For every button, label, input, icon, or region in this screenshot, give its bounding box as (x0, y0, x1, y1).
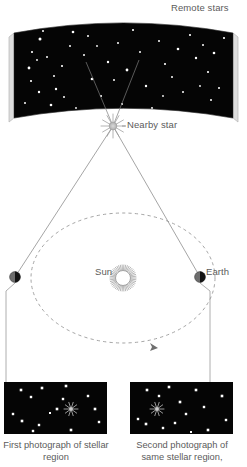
label-earth: Earth (206, 266, 229, 277)
stellar-parallax-diagram: Remote stars Nearby star Sun Earth First… (0, 0, 247, 467)
sight-line-left (15, 126, 113, 277)
label-sun: Sun (95, 266, 112, 277)
photo-frame (130, 382, 233, 434)
backdrop-sky-face (14, 23, 233, 118)
photo-connectors (6, 283, 210, 382)
diagram-canvas (0, 0, 247, 467)
remote-star-backdrop (9, 23, 238, 122)
earth-half-lit-icon (195, 272, 206, 283)
connector-left (6, 283, 15, 382)
sight-line-right (113, 126, 200, 277)
photograph-first (4, 382, 107, 434)
connector-right (200, 283, 210, 382)
caption-first-photograph: First photograph of stellar region (2, 440, 110, 463)
arrowhead-icon (150, 343, 158, 351)
sun-rays-icon (110, 265, 137, 292)
starburst-icon (101, 114, 125, 138)
photo-frame (4, 382, 107, 434)
label-remote-stars: Remote stars (171, 2, 229, 13)
caption-second-photograph: Second photograph of same stellar region… (127, 440, 237, 463)
earth-half-lit-icon (10, 272, 21, 283)
label-nearby-star: Nearby star (127, 119, 177, 130)
photograph-second (130, 382, 233, 434)
